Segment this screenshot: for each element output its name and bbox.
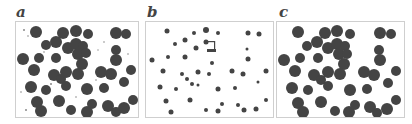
panel-b: [145, 21, 274, 118]
panel-a: [15, 21, 139, 118]
particles-a: [16, 22, 138, 117]
panel-label-c: c: [279, 3, 288, 21]
panel-c: [276, 21, 405, 118]
particles-c: [277, 22, 404, 117]
panel-label-a: a: [16, 3, 26, 21]
particles-b: [146, 22, 273, 117]
panel-label-b: b: [147, 3, 158, 21]
